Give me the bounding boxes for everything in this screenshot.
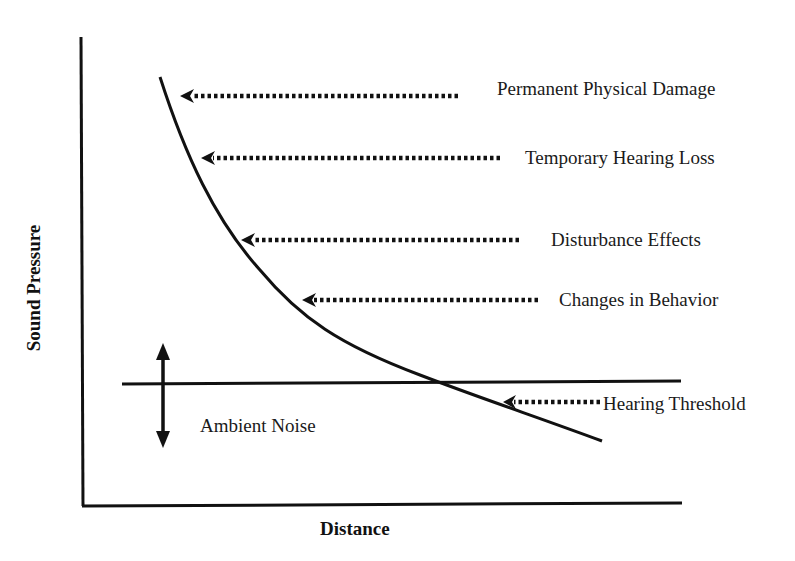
label-disturbance-effects: Disturbance Effects (551, 230, 701, 249)
label-permanent-physical-damage: Permanent Physical Damage (497, 79, 715, 98)
label-hearing-threshold: Hearing Threshold (603, 394, 746, 413)
arrowhead-left-icon (201, 151, 215, 165)
dotted-arrows (192, 96, 600, 402)
arrow-up-icon (156, 343, 170, 360)
arrow-down-icon (156, 431, 170, 448)
arrowheads (180, 89, 516, 409)
label-ambient-noise: Ambient Noise (200, 416, 316, 435)
y-axis (81, 37, 83, 506)
x-axis (82, 503, 682, 506)
ambient-noise-line (122, 381, 681, 384)
arrowhead-left-icon (180, 89, 194, 103)
arrowhead-left-icon (302, 293, 316, 307)
label-changes-in-behavior: Changes in Behavior (559, 290, 718, 309)
y-axis-label: Sound Pressure (24, 225, 43, 352)
sound-pressure-curve (160, 77, 602, 441)
label-temporary-hearing-loss: Temporary Hearing Loss (525, 148, 715, 167)
arrowhead-left-icon (241, 233, 255, 247)
x-axis-label: Distance (320, 519, 390, 538)
